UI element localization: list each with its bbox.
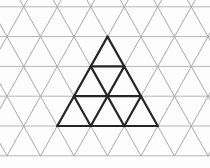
grid-line <box>187 0 210 156</box>
grid-line <box>124 96 141 126</box>
bold-subdivided-triangle <box>57 37 158 126</box>
grid-line <box>175 0 210 156</box>
grid-line <box>0 0 74 156</box>
grid-line <box>120 0 208 156</box>
grid-line <box>74 96 91 126</box>
triangle-grid-figure <box>0 0 210 168</box>
triangle-grid-canvas <box>0 0 210 168</box>
grid-line <box>0 0 28 156</box>
grid-line <box>208 0 210 156</box>
grid-line <box>20 0 108 156</box>
light-grid-lines <box>0 0 210 156</box>
grid-line <box>0 0 7 156</box>
grid-line <box>7 0 95 156</box>
grid-line <box>108 0 196 156</box>
